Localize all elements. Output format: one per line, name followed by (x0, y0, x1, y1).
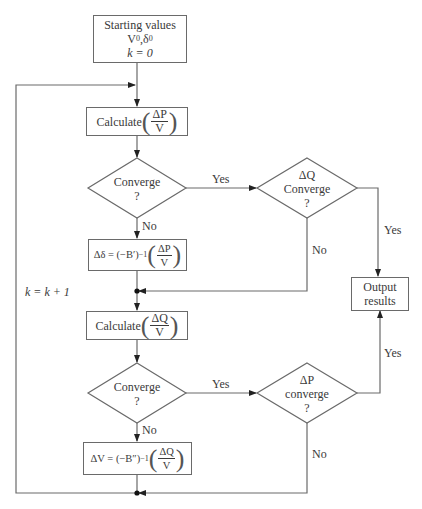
connector-lines (0, 0, 422, 509)
start-counter: k = 0 (127, 46, 152, 60)
loop-increment-label: k = k + 1 (25, 285, 70, 299)
start-title: Starting values (104, 18, 176, 32)
delta-v-box: ΔV = (−B″)−1 ( ΔQ V ) (83, 442, 192, 475)
converge-1-no-label: No (142, 219, 157, 233)
calculate-dq-box: Calculate ( ΔQ V ) (86, 311, 188, 340)
dq-converge-no-label: No (312, 243, 327, 257)
dq-converge-yes-label: Yes (384, 223, 401, 237)
converge-2-no-label: No (142, 423, 157, 437)
start-initial-values: V0, δ0 (127, 32, 152, 46)
calculate-dp-box: Calculate ( ΔP V ) (86, 107, 188, 136)
dp-converge-decision: ΔP converge ? (270, 372, 344, 416)
start-box: Starting values V0, δ0 k = 0 (93, 15, 187, 63)
calculate-dq-label: Calculate (95, 319, 140, 333)
converge-1-yes-label: Yes (212, 172, 229, 186)
dq-converge-decision: ΔQ Converge ? (270, 167, 344, 211)
calculate-dp-label: Calculate (96, 115, 141, 129)
converge-decision-2: Converge ? (100, 379, 174, 409)
converge-decision-1: Converge ? (100, 174, 174, 204)
dp-over-v-fraction: ΔP V (157, 242, 172, 269)
dq-over-v-fraction: ΔQ V (158, 445, 174, 472)
dp-converge-yes-label: Yes (384, 346, 401, 360)
dp-over-v-fraction: ΔP V (151, 108, 167, 135)
delta-delta-box: Δδ = (−B′)−1 ( ΔP V ) (88, 239, 187, 271)
converge-2-yes-label: Yes (212, 377, 229, 391)
dq-over-v-fraction: ΔQ V (150, 312, 168, 339)
output-results-box: Output results (351, 277, 409, 311)
dp-converge-no-label: No (312, 447, 327, 461)
